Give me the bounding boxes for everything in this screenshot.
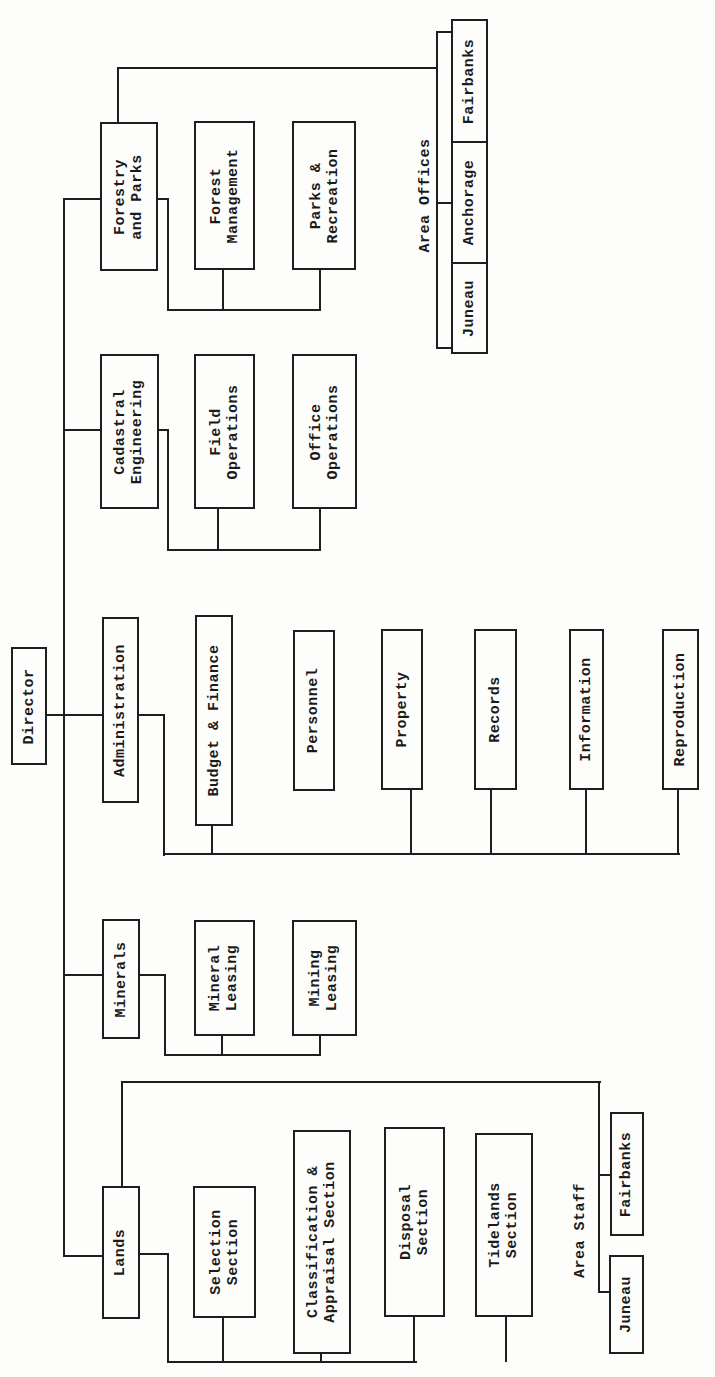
- personnel-label: Personnel: [306, 668, 323, 754]
- area-office-anchorage-box: Anchorage: [451, 141, 488, 264]
- records-box: Records: [474, 629, 517, 790]
- area-office-fairbanks-label: Fairbanks: [461, 38, 478, 124]
- area-staff-fairbanks-label: Fairbanks: [619, 1131, 636, 1217]
- minerals-box: Minerals: [102, 919, 140, 1039]
- classification-appraisal-box: Classification & Appraisal Section: [293, 1130, 351, 1354]
- forestry-branch: [63, 198, 101, 200]
- forestry-up-line: [117, 67, 119, 123]
- forest-management-box: Forest Management: [194, 121, 255, 270]
- disposal-section-box: Disposal Section: [384, 1127, 445, 1317]
- parks-stem: [319, 269, 321, 310]
- property-label: Property: [394, 671, 411, 747]
- cadastral-branch: [63, 429, 101, 431]
- lands-label: Lands: [113, 1229, 130, 1277]
- area-offices-hook-bottom: [436, 347, 452, 349]
- cadastral-sub-bracket: [167, 549, 321, 551]
- minerals-branch: [63, 974, 103, 976]
- minerals-sub-hook: [138, 974, 166, 976]
- forestry-sub-vertical: [167, 198, 169, 311]
- selection-section-box: Selection Section: [193, 1186, 256, 1318]
- admin-sub-vertical: [163, 714, 165, 856]
- information-label: Information: [578, 657, 595, 762]
- lands-sub-hook: [138, 1253, 169, 1255]
- director-connector: [46, 714, 103, 716]
- mining-leasing-stem: [319, 1034, 321, 1055]
- reproduction-box: Reproduction: [662, 629, 699, 790]
- records-label: Records: [487, 676, 504, 743]
- records-stem: [490, 788, 492, 854]
- tidelands-section-label: Tidelands Section: [487, 1182, 521, 1268]
- mining-leasing-box: Mining Leasing: [292, 920, 357, 1036]
- selection-stem: [222, 1316, 224, 1362]
- classification-appraisal-label: Classification & Appraisal Section: [305, 1161, 339, 1323]
- forestry-box: Forestry and Parks: [100, 122, 158, 271]
- lands-top-line: [121, 1081, 601, 1083]
- office-operations-label: Office Operations: [308, 384, 342, 479]
- mineral-leasing-box: Mineral Leasing: [194, 920, 255, 1036]
- office-ops-stem: [319, 507, 321, 550]
- disposal-stem: [413, 1315, 415, 1362]
- disposal-section-label: Disposal Section: [398, 1184, 432, 1260]
- admin-sub-hook: [137, 714, 165, 716]
- lands-up-line: [121, 1081, 123, 1187]
- forest-mgmt-stem: [222, 269, 224, 310]
- selection-section-label: Selection Section: [208, 1209, 242, 1295]
- lands-box: Lands: [102, 1186, 140, 1319]
- area-office-juneau-box: Juneau: [451, 262, 488, 354]
- field-ops-stem: [217, 507, 219, 550]
- budget-finance-label: Budget & Finance: [206, 644, 223, 796]
- minerals-sub-vertical: [164, 974, 166, 1056]
- minerals-label: Minerals: [113, 941, 130, 1017]
- tidelands-section-box: Tidelands Section: [475, 1133, 533, 1317]
- area-staff-juneau-box: Juneau: [609, 1255, 644, 1354]
- parks-recreation-box: Parks & Recreation: [292, 121, 356, 270]
- cadastral-label: Cadastral Engineering: [113, 379, 147, 484]
- minerals-sub-bracket: [164, 1054, 321, 1056]
- reproduction-label: Reproduction: [672, 652, 689, 766]
- lands-branch: [63, 1255, 103, 1257]
- forestry-sub-bracket: [167, 309, 321, 311]
- tidelands-stem: [505, 1315, 507, 1362]
- field-operations-label: Field Operations: [208, 384, 242, 479]
- information-box: Information: [569, 629, 604, 790]
- forest-management-label: Forest Management: [208, 148, 242, 243]
- director-label: Director: [21, 668, 38, 744]
- parks-recreation-label: Parks & Recreation: [307, 148, 341, 243]
- mineral-leasing-stem: [221, 1034, 223, 1055]
- administration-box: Administration: [102, 617, 139, 803]
- area-office-fairbanks-box: Fairbanks: [451, 19, 488, 143]
- area-offices-hook-mid: [436, 202, 452, 204]
- area-offices-hook-top: [436, 31, 452, 33]
- lands-sub-bracket: [167, 1361, 417, 1363]
- area-offices-title: Area Offices: [413, 120, 437, 270]
- area-office-anchorage-label: Anchorage: [461, 160, 478, 246]
- cadastral-box: Cadastral Engineering: [100, 354, 159, 509]
- main-spine-line: [63, 198, 65, 1257]
- area-staff-vertical: [598, 1081, 600, 1293]
- budget-finance-box: Budget & Finance: [195, 615, 233, 826]
- cadastral-sub-vertical: [167, 429, 169, 551]
- admin-sub-bracket: [163, 853, 680, 855]
- personnel-box: Personnel: [293, 630, 335, 791]
- mineral-leasing-label: Mineral Leasing: [208, 945, 242, 1012]
- office-operations-box: Office Operations: [292, 354, 357, 509]
- forestry-label: Forestry and Parks: [112, 154, 146, 240]
- property-stem: [410, 788, 412, 854]
- field-operations-box: Field Operations: [194, 354, 255, 509]
- director-box: Director: [11, 647, 47, 765]
- administration-label: Administration: [112, 643, 129, 776]
- property-box: Property: [381, 629, 423, 790]
- area-staff-title: Area Staff: [568, 1170, 592, 1290]
- forestry-top-line: [117, 67, 438, 69]
- area-staff-fairbanks-box: Fairbanks: [610, 1112, 644, 1236]
- area-office-juneau-label: Juneau: [461, 279, 478, 336]
- mining-leasing-label: Mining Leasing: [308, 945, 342, 1012]
- reproduction-stem: [677, 788, 679, 854]
- area-staff-juneau-label: Juneau: [618, 1276, 635, 1333]
- lands-sub-vertical: [167, 1253, 169, 1363]
- budget-stem: [211, 824, 213, 854]
- information-stem: [585, 788, 587, 854]
